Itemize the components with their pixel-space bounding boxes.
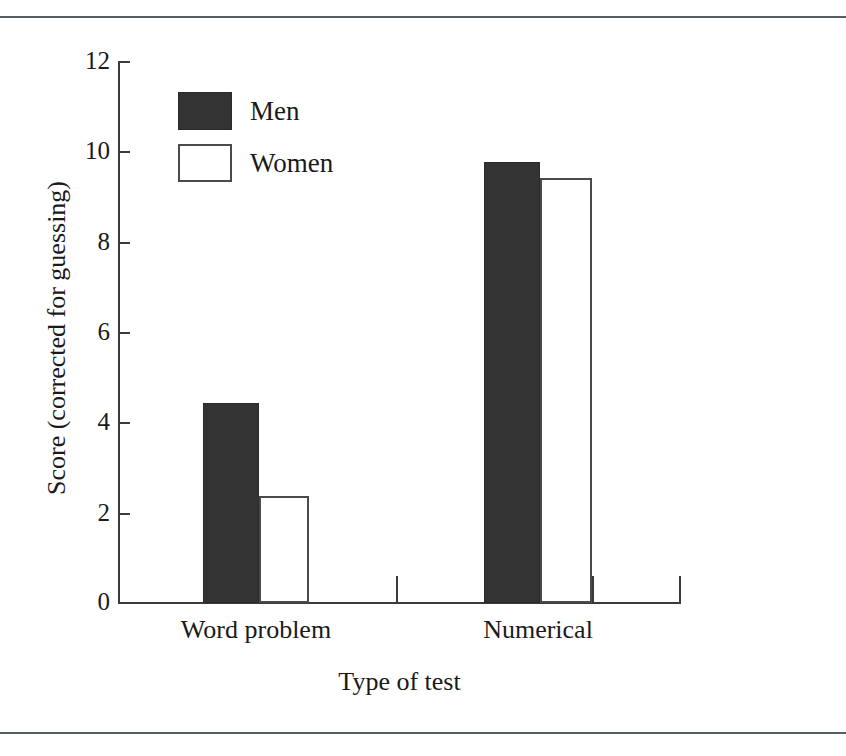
y-axis-tick-label-10: 10 xyxy=(68,138,110,163)
x-axis-tick-group-separator-1 xyxy=(396,576,398,603)
legend-label-men: Men xyxy=(250,88,300,134)
y-axis-tick-label-4: 4 xyxy=(68,409,110,434)
y-axis-tick-label-6: 6 xyxy=(68,319,110,344)
y-axis-tick-label-0-wrap: 0 xyxy=(58,589,110,614)
y-axis-tick-6 xyxy=(118,332,130,334)
y-axis-tick-label-8: 8 xyxy=(68,229,110,254)
y-axis-tick-label-12: 12 xyxy=(68,48,110,73)
y-axis-tick-4 xyxy=(118,422,130,424)
y-axis-tick-0 xyxy=(118,602,130,604)
x-axis-tick-group-separator-2 xyxy=(592,576,594,603)
y-axis-tick-label-12-wrap: 12 xyxy=(58,48,110,73)
y-axis-tick-label-2: 2 xyxy=(68,500,110,525)
figure-container: 12 10 8 6 4 2 0 xyxy=(0,0,846,756)
bar-women-word-problem[interactable] xyxy=(259,496,309,603)
legend-label-women: Women xyxy=(250,140,333,186)
y-axis-tick-label-0: 0 xyxy=(68,589,110,614)
plot-area: 12 10 8 6 4 2 0 xyxy=(0,0,846,756)
y-axis-title: Score (corrected for guessing) xyxy=(43,103,71,573)
bar-men-word-problem[interactable] xyxy=(203,403,259,603)
y-axis-tick-8 xyxy=(118,242,130,244)
x-axis-title: Type of test xyxy=(118,668,681,696)
y-axis-tick-10 xyxy=(118,151,130,153)
y-axis-tick-12 xyxy=(118,61,130,63)
x-axis-category-label-numerical: Numerical xyxy=(428,615,648,645)
bar-women-numerical[interactable] xyxy=(540,178,592,603)
legend-swatch-women-icon xyxy=(178,144,232,182)
y-axis-tick-2 xyxy=(118,513,130,515)
x-axis-tick-group-end xyxy=(679,576,681,603)
bar-men-numerical[interactable] xyxy=(484,162,540,603)
legend-swatch-men-icon xyxy=(178,92,232,130)
x-axis-category-label-word-problem: Word problem xyxy=(146,615,366,645)
